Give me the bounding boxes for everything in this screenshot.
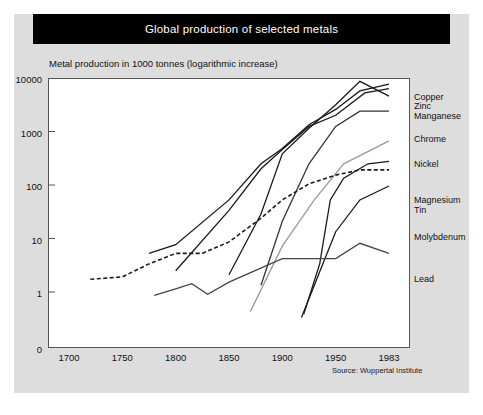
y-axis-tick-label: 0 — [37, 344, 42, 355]
source-note: Source: Wuppertal Institute — [332, 366, 422, 375]
y-axis-tick-label: 100 — [26, 181, 42, 192]
x-axis-tick-label: 1983 — [378, 352, 399, 363]
y-axis-tick-label: 1 — [37, 288, 42, 299]
x-axis-tick-label: 1850 — [218, 352, 239, 363]
x-axis-tick-label: 1950 — [325, 352, 346, 363]
title-bar: Global production of selected metals — [33, 14, 450, 44]
chart-subtitle: Metal production in 1000 tonnes (logarit… — [49, 58, 278, 69]
page-title: Global production of selected metals — [145, 23, 338, 35]
x-axis-tick-label: 1750 — [112, 352, 133, 363]
chart-panel: Global production of selected metals Met… — [14, 14, 469, 393]
x-axis-tick-label: 1700 — [58, 352, 79, 363]
y-axis-tick-label: 10 — [31, 234, 42, 245]
x-axis-tick-label: 1900 — [272, 352, 293, 363]
figure-canvas: Global production of selected metals Met… — [0, 0, 483, 415]
y-axis-tick-label: 10000 — [16, 74, 42, 85]
x-axis-tick-label: 1800 — [165, 352, 186, 363]
legend-leader-lines — [410, 78, 470, 348]
axis-ticks — [48, 78, 410, 348]
y-axis-tick-label: 1000 — [21, 127, 42, 138]
